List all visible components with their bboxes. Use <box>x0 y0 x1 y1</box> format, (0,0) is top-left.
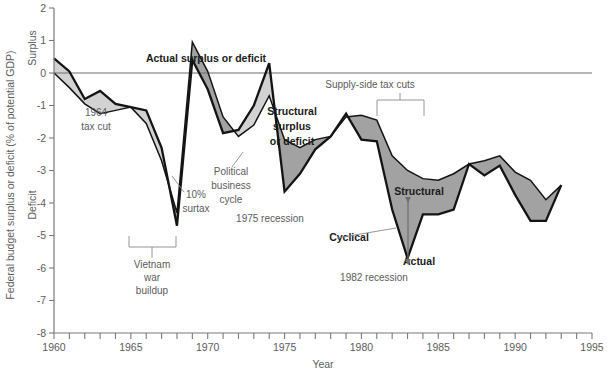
y-tick-label: 1 <box>40 34 46 46</box>
annotation-actual-label: Actual surplus or deficit <box>146 52 267 64</box>
supply-side-bracket <box>377 93 424 116</box>
x-tick-label: 1970 <box>196 341 220 353</box>
y-tick-label: -8 <box>37 327 46 339</box>
annotation-supply-side-tax-cuts: Supply-side tax cuts <box>325 79 415 90</box>
x-tick-label: 1980 <box>350 341 374 353</box>
y-tick-label: -1 <box>37 99 46 111</box>
y-axis-deficit-label: Deficit <box>26 190 38 219</box>
y-axis-surplus-label: Surplus <box>26 30 38 66</box>
annotation-surtax-line1: 10% <box>186 189 206 200</box>
annotation-recession-1975: 1975 recession <box>236 213 304 224</box>
x-tick-label: 1995 <box>580 341 604 353</box>
chart-figure: 210-1-2-3-4-5-6-7-8196019651970197519801… <box>0 0 607 376</box>
annotation-vietnam-line1: Vietnam <box>134 259 171 270</box>
y-tick-label: -4 <box>37 197 46 209</box>
y-tick-label: 2 <box>40 2 46 14</box>
y-tick-label: -6 <box>37 262 46 274</box>
annotation-political-cycle-line3: cycle <box>220 194 243 205</box>
annotation-recession-1982: 1982 recession <box>340 272 408 283</box>
leader-line <box>232 152 243 167</box>
y-tick-label: -5 <box>37 229 46 241</box>
y-axis-title: Federal budget surplus or deficit (% of … <box>4 50 16 299</box>
annotation-structural-arrow-label: Structural <box>394 185 444 197</box>
annotation-tax-cut-1964-line1: 1964 <box>85 107 108 118</box>
annotation-structural-label-1: Structural <box>267 105 317 117</box>
annotation-structural-label-2: surplus <box>273 120 311 132</box>
shaded-gap-bands <box>54 42 561 258</box>
x-tick-label: 1985 <box>427 341 451 353</box>
vietnam-bracket <box>129 236 176 258</box>
annotation-surtax-line2: surtax <box>182 203 209 214</box>
annotation-cyclical-label: Cyclical <box>329 231 369 243</box>
annotation-political-cycle-line2: business <box>211 180 250 191</box>
annotation-political-cycle-line1: Political <box>214 166 248 177</box>
x-tick-label: 1975 <box>273 341 297 353</box>
annotation-vietnam-line3: buildup <box>136 285 169 296</box>
x-tick-label: 1960 <box>42 341 66 353</box>
y-tick-label: -2 <box>37 132 46 144</box>
y-tick-label: -3 <box>37 164 46 176</box>
y-tick-label: 0 <box>40 67 46 79</box>
budget-deficit-chart: 210-1-2-3-4-5-6-7-8196019651970197519801… <box>0 0 607 376</box>
x-tick-label: 1965 <box>119 341 143 353</box>
y-tick-label: -7 <box>37 294 46 306</box>
annotation-structural-label-3: or deficit <box>270 135 315 147</box>
band-structural-worse <box>348 115 561 258</box>
annotation-tax-cut-1964-line2: tax cut <box>81 121 111 132</box>
annotation-vietnam-line2: war <box>143 272 161 283</box>
x-tick-label: 1990 <box>503 341 527 353</box>
x-axis-title: Year <box>312 358 334 370</box>
